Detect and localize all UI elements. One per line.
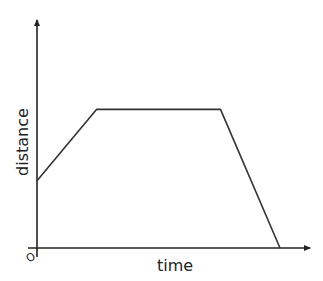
x-axis-label: time bbox=[157, 256, 193, 275]
graph-line bbox=[37, 109, 280, 248]
distance-time-graph: distance time O bbox=[0, 0, 323, 281]
y-axis-label: distance bbox=[13, 108, 32, 176]
origin-label: O bbox=[24, 250, 38, 266]
